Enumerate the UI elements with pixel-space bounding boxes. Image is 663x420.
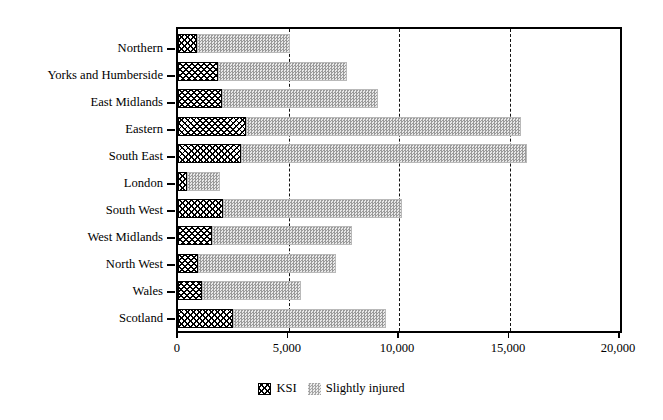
bar-segment-ksi	[178, 34, 197, 53]
bar-row	[178, 34, 620, 53]
x-axis-tick-label: 5,000	[273, 341, 301, 355]
x-axis-tick-label: 20,000	[601, 341, 636, 355]
bar-segment-slightly-injured	[197, 34, 290, 53]
y-axis-tick	[167, 48, 175, 50]
x-axis-tick	[176, 332, 178, 338]
x-axis-tick	[508, 332, 510, 338]
x-axis-tick-label: 10,000	[380, 341, 415, 355]
y-axis-label: Yorks and Humberside	[0, 69, 163, 82]
y-axis-tick	[167, 210, 175, 212]
bar-segment-slightly-injured	[223, 199, 402, 218]
bar-row	[178, 89, 620, 108]
bar-row	[178, 62, 620, 81]
y-axis-tick	[167, 264, 175, 266]
y-axis-label: Scotland	[0, 312, 163, 325]
bar-segment-slightly-injured	[233, 309, 386, 328]
y-axis-label: London	[0, 177, 163, 190]
bar-row	[178, 199, 620, 218]
bar-row	[178, 226, 620, 245]
bar-segment-slightly-injured	[246, 117, 521, 136]
x-axis-tick	[397, 332, 399, 338]
bar-segment-slightly-injured	[212, 226, 352, 245]
horizontal-stacked-bar-chart: Northern Yorks and Humberside East Midla…	[0, 0, 663, 420]
stipple-swatch-icon	[308, 383, 321, 395]
legend-item-slightly-injured: Slightly injured	[308, 382, 405, 395]
plot-inner	[178, 29, 620, 331]
bar-segment-slightly-injured	[222, 89, 378, 108]
bar-row	[178, 281, 620, 300]
bar-segment-ksi	[178, 199, 223, 218]
y-axis-tick	[167, 102, 175, 104]
bar-row	[178, 144, 620, 163]
bar-row	[178, 172, 620, 191]
y-axis-tick	[167, 183, 175, 185]
x-axis-tick-label: 0	[174, 341, 180, 355]
bar-row	[178, 309, 620, 328]
y-axis-tick	[167, 75, 175, 77]
x-axis-tick-label: 15,000	[491, 341, 526, 355]
y-axis-label: South East	[0, 150, 163, 163]
bar-segment-ksi	[178, 117, 246, 136]
bar-segment-ksi	[178, 254, 198, 273]
plot-area	[176, 27, 622, 333]
bar-segment-ksi	[178, 309, 233, 328]
y-axis-tick	[167, 291, 175, 293]
y-axis-label: East Midlands	[0, 96, 163, 109]
x-axis-tick	[618, 332, 620, 338]
y-axis-tick	[167, 129, 175, 131]
bar-segment-slightly-injured	[187, 172, 220, 191]
y-axis-labels: Northern Yorks and Humberside East Midla…	[0, 27, 163, 329]
bar-segment-slightly-injured	[241, 144, 527, 163]
cross-hatch-swatch-icon	[258, 383, 271, 395]
bar-segment-ksi	[178, 172, 187, 191]
bar-segment-ksi	[178, 281, 202, 300]
bar-row	[178, 117, 620, 136]
bar-segment-ksi	[178, 226, 212, 245]
bar-segment-slightly-injured	[198, 254, 336, 273]
bar-segment-ksi	[178, 144, 241, 163]
y-axis-label: North West	[0, 258, 163, 271]
legend-label: KSI	[276, 382, 296, 395]
y-axis-tick	[167, 237, 175, 239]
y-axis-label: Northern	[0, 42, 163, 55]
y-axis-label: Eastern	[0, 123, 163, 136]
chart-legend: KSI Slightly injured	[0, 382, 663, 395]
bar-segment-ksi	[178, 89, 222, 108]
y-axis-label: West Midlands	[0, 231, 163, 244]
bar-row	[178, 254, 620, 273]
legend-label: Slightly injured	[326, 382, 405, 395]
bar-segment-slightly-injured	[202, 281, 301, 300]
bar-segment-ksi	[178, 62, 218, 81]
y-axis-label: South West	[0, 204, 163, 217]
y-axis-tick	[167, 318, 175, 320]
x-axis-tick	[287, 332, 289, 338]
legend-item-ksi: KSI	[258, 382, 296, 395]
y-axis-tick	[167, 156, 175, 158]
y-axis-label: Wales	[0, 285, 163, 298]
bar-segment-slightly-injured	[218, 62, 347, 81]
